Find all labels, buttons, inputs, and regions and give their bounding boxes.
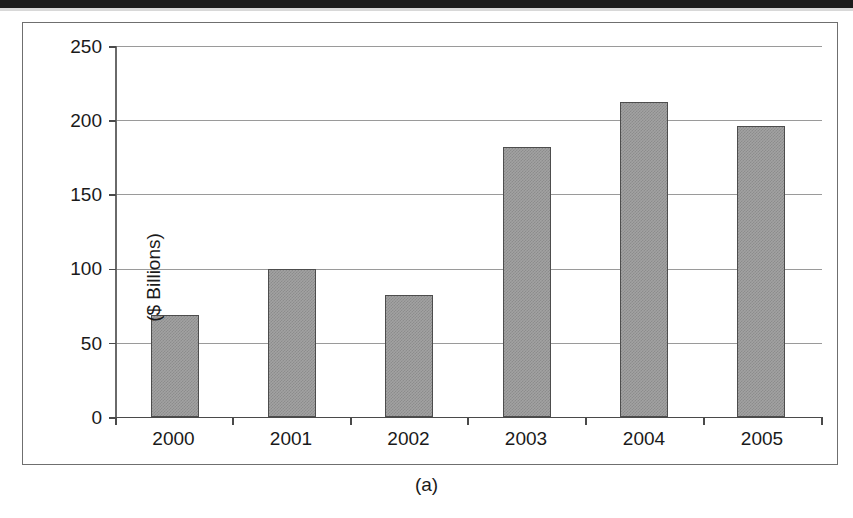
y-tick-mark-100 (109, 269, 116, 271)
x-tick-mark-3 (467, 417, 469, 425)
y-tick-mark-200 (109, 120, 116, 122)
x-tick-mark-6 (821, 417, 823, 425)
x-tick-mark-4 (585, 417, 587, 425)
plot-area: ($ Billions) (115, 46, 822, 417)
y-tick-mark-50 (109, 343, 116, 345)
gridline-250 (115, 46, 822, 47)
y-tick-label-250: 250 (44, 37, 102, 56)
x-tick-label-2000: 2000 (115, 428, 232, 450)
x-tick-mark-0 (115, 417, 117, 425)
x-tick-label-2001: 2001 (232, 428, 350, 450)
bar-2001 (268, 269, 316, 417)
gridline-150 (115, 194, 822, 195)
y-tick-label-150: 150 (44, 185, 102, 204)
y-tick-label-0: 0 (44, 408, 102, 427)
x-tick-mark-5 (703, 417, 705, 425)
bar-2002 (385, 295, 433, 417)
y-tick-label-200: 200 (44, 111, 102, 130)
y-tick-mark-150 (109, 194, 116, 196)
x-tick-label-2004: 2004 (585, 428, 703, 450)
gridline-50 (115, 343, 822, 344)
x-tick-mark-2 (350, 417, 352, 425)
gridline-200 (115, 120, 822, 121)
bar-2004 (620, 102, 668, 417)
y-tick-label-100: 100 (44, 259, 102, 278)
x-axis-line (115, 417, 823, 419)
gridline-100 (115, 269, 822, 270)
x-tick-label-2005: 2005 (703, 428, 821, 450)
figure-caption: (a) (0, 474, 853, 496)
x-tick-label-2002: 2002 (350, 428, 467, 450)
y-tick-mark-250 (109, 46, 116, 48)
x-tick-mark-1 (232, 417, 234, 425)
bar-2005 (737, 126, 785, 417)
bar-chart: ($ Billions) 250 200 150 100 50 0 2000 2… (0, 0, 853, 518)
x-tick-label-2003: 2003 (467, 428, 585, 450)
y-axis-line (115, 46, 117, 418)
y-tick-label-50: 50 (44, 334, 102, 353)
bar-2003 (503, 147, 551, 417)
y-axis-title: ($ Billions) (144, 198, 163, 358)
